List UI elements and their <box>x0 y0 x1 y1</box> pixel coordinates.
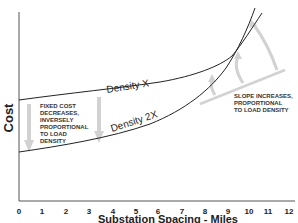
svg-text:10: 10 <box>245 207 254 216</box>
svg-text:PROPORTIONAL: PROPORTIONAL <box>40 124 89 130</box>
label-density-x: Density X <box>106 77 150 95</box>
svg-text:PROPORTIONAL: PROPORTIONAL <box>234 100 283 106</box>
svg-text:DECREASES,: DECREASES, <box>40 110 79 116</box>
chart: Cost 0 1 2 3 4 5 6 7 8 9 10 11 12 Substa… <box>0 0 298 223</box>
svg-text:2: 2 <box>64 207 69 216</box>
label-density-2x: Density 2X <box>109 108 159 134</box>
svg-text:INVERSELY: INVERSELY <box>40 117 73 123</box>
arrowheads <box>208 20 257 82</box>
svg-text:11: 11 <box>264 207 273 216</box>
note-slope: SLOPE INCREASES, PROPORTIONAL TO LOAD DE… <box>234 93 293 113</box>
svg-text:1: 1 <box>40 207 45 216</box>
y-axis-label: Cost <box>1 103 16 133</box>
svg-text:TO LOAD DENSITY: TO LOAD DENSITY <box>234 107 289 113</box>
svg-text:0: 0 <box>17 207 22 216</box>
svg-text:12: 12 <box>285 207 294 216</box>
svg-text:TO LOAD: TO LOAD <box>40 131 68 137</box>
svg-text:SLOPE INCREASES,: SLOPE INCREASES, <box>234 93 293 99</box>
svg-text:DENSITY: DENSITY <box>40 138 66 144</box>
svg-text:FIXED COST: FIXED COST <box>40 103 76 109</box>
x-axis-label: Substation Spacing - Miles <box>98 213 238 223</box>
svg-text:3: 3 <box>87 207 92 216</box>
note-fixed-cost: FIXED COST DECREASES, INVERSELY PROPORTI… <box>40 103 89 144</box>
